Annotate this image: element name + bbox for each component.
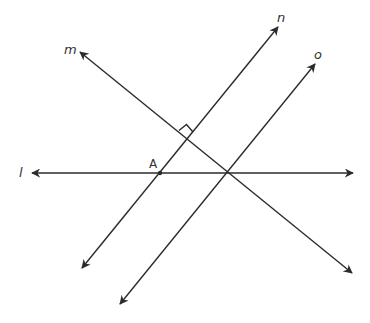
- line-m: [80, 52, 352, 273]
- right-angle-marker: [179, 125, 193, 133]
- geometry-diagram: l m n o A: [0, 0, 370, 323]
- label-l: l: [19, 165, 23, 180]
- label-point-a: A: [149, 157, 158, 171]
- line-n: [82, 27, 278, 268]
- label-n: n: [277, 10, 285, 25]
- label-o: o: [314, 47, 322, 62]
- point-a-dot: [158, 171, 162, 175]
- label-m: m: [64, 42, 77, 57]
- line-o: [120, 64, 315, 304]
